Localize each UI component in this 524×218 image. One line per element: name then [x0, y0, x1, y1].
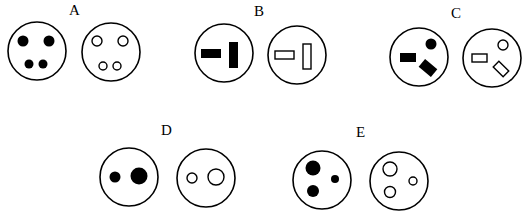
option-a: A: [8, 2, 140, 81]
option-b-hollow-face: [268, 26, 326, 84]
option-a-filled-face: [8, 22, 66, 80]
option-c-filled-face: [390, 28, 448, 86]
option-e-label: E: [356, 124, 365, 140]
option-e-hollow-face: [370, 152, 428, 210]
option-b: B: [195, 3, 326, 84]
option-c-hollow-face: [463, 29, 521, 87]
option-e: E: [293, 124, 428, 210]
option-e-filled-face: [293, 151, 351, 209]
option-c: C: [390, 5, 521, 87]
option-d-label: D: [161, 122, 172, 138]
option-d: D: [100, 122, 235, 207]
option-b-filled-face: [195, 24, 253, 82]
option-d-hollow-face: [177, 149, 235, 207]
plug-pairs-diagram: A B C: [0, 0, 524, 218]
option-c-label: C: [451, 5, 461, 21]
option-a-label: A: [69, 2, 80, 18]
option-b-label: B: [254, 3, 264, 19]
option-d-filled-face: [100, 148, 158, 206]
option-a-hollow-face: [82, 23, 140, 81]
